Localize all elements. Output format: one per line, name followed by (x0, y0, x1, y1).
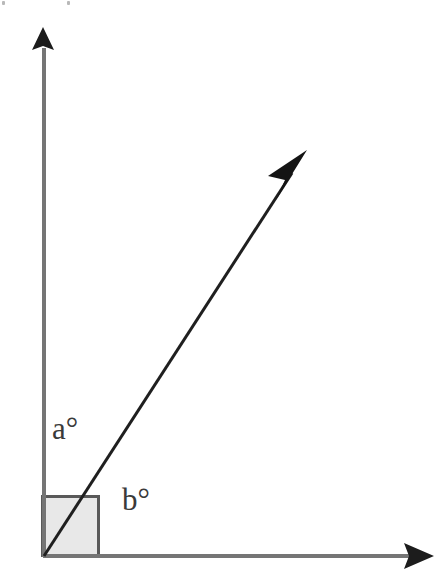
angle-label-b: b° (122, 484, 150, 515)
diagram-canvas (0, 0, 446, 579)
diagonal-ray-arrowhead-icon (268, 150, 307, 200)
scan-speck-2 (67, 1, 70, 5)
diagonal-ray-line (44, 173, 292, 556)
angle-label-a: a° (52, 413, 78, 444)
scan-speck-1 (2, 1, 5, 5)
angle-diagram-figure: a° b° (0, 0, 446, 579)
vertical-axis-arrowhead-icon (32, 27, 54, 50)
